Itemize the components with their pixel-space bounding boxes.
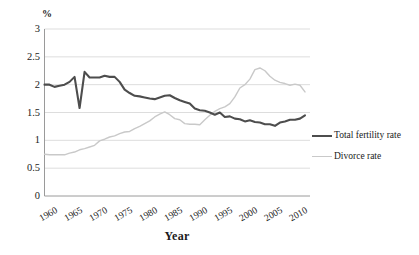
x-axis-title: Year: [44, 229, 310, 244]
data-series: [45, 68, 305, 155]
legend-swatch-divorce-rate: [312, 151, 332, 161]
legend-swatch-total-fertility-rate: [312, 130, 332, 140]
legend-label-total-fertility-rate: Total fertility rate: [334, 130, 401, 140]
line-chart: % 32.521.510.50 196019651970197519801985…: [0, 0, 419, 255]
legend-item-total-fertility-rate: Total fertility rate: [312, 124, 419, 145]
x-axis-tick-labels: 1960196519701975198019851990199520002005…: [0, 201, 419, 231]
legend-item-divorce-rate: Divorce rate: [312, 145, 419, 166]
chart-legend: Total fertility rate Divorce rate: [312, 124, 419, 166]
legend-label-divorce-rate: Divorce rate: [334, 151, 381, 161]
